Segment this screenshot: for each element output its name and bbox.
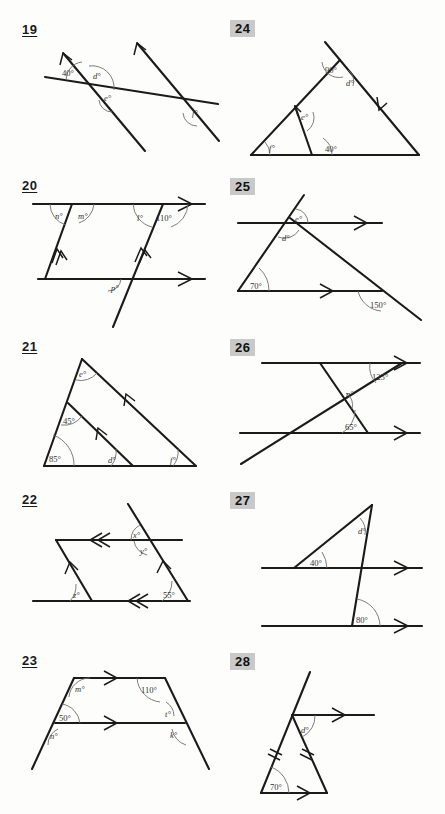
transversal-a-26 — [320, 363, 368, 433]
hypotenuse-25 — [290, 218, 421, 320]
problem-19: 19 40° d° e° f° — [0, 0, 223, 175]
label-n-23: n° — [50, 731, 58, 741]
figure-22: x° y° z° 55° — [0, 490, 223, 645]
problem-25: 25 e° d° 70° 150° — [222, 175, 445, 335]
label-70-25: 70° — [250, 281, 263, 291]
transversal-25 — [238, 195, 304, 291]
side-right-24 — [325, 42, 419, 155]
label-p-26: p° — [345, 389, 354, 399]
label-110-20: 110° — [156, 213, 173, 223]
figure-25: e° d° 70° 150° — [222, 175, 445, 335]
label-d-19: d° — [93, 71, 101, 81]
label-150-25: 150° — [370, 300, 387, 310]
figure-27: d° 40° 80° — [222, 490, 445, 645]
label-45-21: 45° — [63, 416, 76, 426]
figure-20: n° m° l° 110° p° — [0, 175, 223, 335]
arrowmark-right-24 — [377, 97, 387, 110]
label-m-20: m° — [78, 211, 88, 221]
label-e-21: e° — [79, 369, 87, 379]
worksheet-page: 19 40° d° e° f° 24 — [0, 0, 445, 814]
label-110-23: 110° — [141, 685, 158, 695]
side-slant-27 — [294, 505, 372, 568]
figure-26: 125° p° 65° — [222, 335, 445, 490]
label-e-19: e° — [104, 93, 112, 103]
label-f-24: f° — [269, 143, 275, 153]
label-f-19: f° — [192, 108, 198, 118]
label-40-19: 40° — [62, 68, 75, 78]
arc-40-27 — [322, 552, 327, 568]
label-m-23: m° — [75, 684, 85, 694]
label-d-28: d° — [301, 725, 309, 735]
label-40-27: 40° — [310, 558, 323, 568]
label-d-27: d° — [358, 526, 366, 536]
label-y-22: y° — [139, 546, 148, 556]
problem-27: 27 d° 40° 80° — [222, 490, 445, 645]
label-125-26: 125° — [372, 372, 389, 382]
label-55-22: 55° — [163, 590, 176, 600]
label-x-22: x° — [132, 530, 141, 540]
label-85-21: 85° — [49, 454, 62, 464]
label-f-21: f° — [170, 455, 176, 465]
label-p-20: p° — [110, 283, 119, 293]
label-d-24: d° — [346, 78, 354, 88]
figure-23: m° 110° 50° n° t° k° — [0, 645, 223, 814]
side-right-21 — [82, 359, 196, 466]
problem-24: 24 90° d° e° f° 40° — [222, 0, 445, 175]
figure-19: 40° d° e° f° — [0, 0, 223, 175]
label-l-20: l° — [137, 213, 143, 223]
label-65-26: 65° — [345, 422, 358, 432]
label-e-25: e° — [295, 214, 303, 224]
label-z-22: z° — [72, 590, 80, 600]
label-k-23: k° — [170, 730, 178, 740]
problem-22: 22 x° y° z° 55° — [0, 490, 223, 645]
figure-28: d° 70° — [222, 645, 445, 814]
label-50-23: 50° — [59, 713, 72, 723]
figure-21: e° 45° 85° d° f° — [0, 335, 223, 490]
label-n-20: n° — [55, 211, 63, 221]
side-right-28 — [292, 715, 327, 793]
label-d-25: d° — [282, 233, 290, 243]
problem-23: 23 m° 110° 50° n° t° k° — [0, 645, 223, 814]
label-t-23: t° — [165, 709, 171, 719]
line-base-19 — [45, 77, 218, 104]
figure-24: 90° d° e° f° 40° — [222, 0, 445, 175]
label-e-24: e° — [301, 112, 309, 122]
label-90-24: 90° — [325, 65, 338, 75]
transversal-right-22 — [128, 504, 188, 601]
label-d-21: d° — [108, 455, 116, 465]
problem-26: 26 125° p° 65° — [222, 335, 445, 490]
arrowmark-transversal-right-20 — [135, 248, 151, 264]
label-40-24: 40° — [325, 144, 338, 154]
problem-21: 21 e° 45° 85° d° f° — [0, 335, 223, 490]
transversal-right-19 — [137, 43, 219, 141]
transversal-27 — [352, 505, 372, 626]
problem-20: 20 n° m° l° 110° p° — [0, 175, 223, 335]
label-80-27: 80° — [356, 615, 369, 625]
label-70-28: 70° — [270, 782, 283, 792]
problem-28: 28 d° 70° — [222, 645, 445, 814]
internal-segment-21 — [68, 403, 133, 466]
